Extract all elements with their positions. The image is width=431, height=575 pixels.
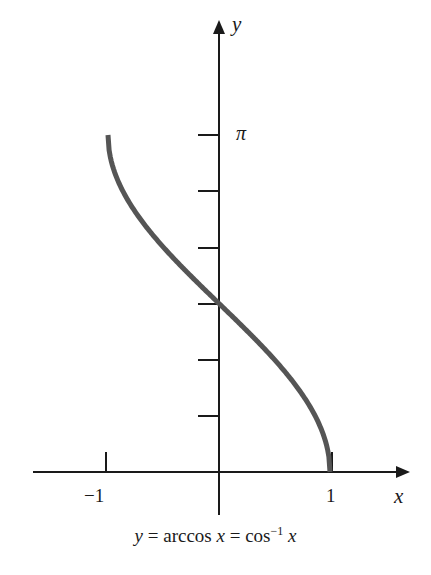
y-axis-label: y — [232, 12, 241, 37]
x-tick-label-1: 1 — [326, 485, 336, 507]
caption-y: y — [135, 525, 143, 546]
y-ticks — [198, 135, 219, 416]
y-tick-label-pi: π — [236, 122, 246, 145]
caption-cos: = cos — [225, 525, 271, 546]
y-axis-arrow-icon — [213, 20, 225, 34]
x-axis-label: x — [394, 484, 403, 509]
caption-arccos: = arccos — [143, 525, 217, 546]
arccos-chart — [0, 0, 431, 575]
caption-x1: x — [216, 525, 224, 546]
caption-x2: x — [283, 525, 296, 546]
chart-caption: y = arccos x = cos−1 x — [0, 524, 431, 547]
x-tick-label-neg1: −1 — [84, 485, 104, 507]
caption-superscript: −1 — [270, 524, 283, 538]
x-axis-arrow-icon — [396, 466, 410, 478]
